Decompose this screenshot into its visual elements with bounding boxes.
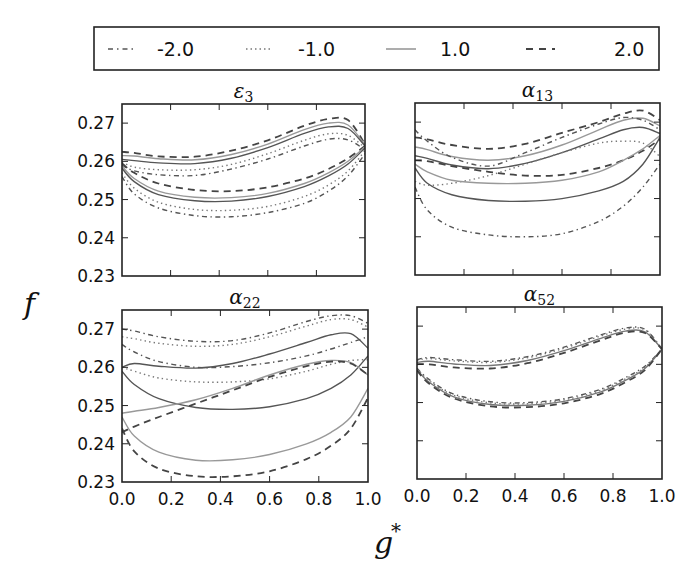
- series-line: [417, 327, 662, 361]
- series-line: [122, 315, 368, 342]
- series-line: [417, 331, 662, 368]
- y-tick-label: 0.25: [77, 190, 115, 210]
- y-tick-label: 0.23: [77, 266, 115, 286]
- legend-label: 1.0: [440, 38, 470, 60]
- y-tick-label: 0.27: [77, 319, 115, 339]
- x-tick-label: 0.6: [256, 489, 283, 509]
- y-tick-label: 0.26: [77, 357, 115, 377]
- series-group: [122, 118, 365, 218]
- x-tick-label: 0.4: [207, 489, 234, 509]
- series-line: [122, 337, 368, 368]
- x-tick-label: 0.0: [403, 486, 430, 506]
- y-tick-label: 0.23: [77, 472, 115, 492]
- x-tick-label: 0.6: [550, 486, 577, 506]
- x-tick-label: 0.8: [599, 486, 626, 506]
- x-tick-label: 0.4: [501, 486, 528, 506]
- x-tick-label: 0.8: [305, 489, 332, 509]
- series-group: [415, 110, 660, 236]
- series-line: [122, 360, 368, 413]
- x-axis-label: g *: [374, 519, 401, 560]
- subplot-alpha13: α13: [415, 78, 660, 275]
- y-tick-label: 0.25: [77, 396, 115, 416]
- series-line: [122, 151, 365, 211]
- plot-frame: [417, 307, 662, 479]
- series-line: [122, 398, 368, 477]
- y-axis-label: f: [22, 286, 40, 321]
- x-axis-label-sup: *: [391, 519, 401, 543]
- series-line: [122, 319, 368, 347]
- legend-label: 2.0: [614, 38, 644, 60]
- y-tick-label: 0.24: [77, 434, 115, 454]
- subplot-title: α13: [522, 78, 553, 104]
- legend: -2.0 -1.0 1.0 2.0: [94, 27, 659, 70]
- series-line: [122, 122, 365, 160]
- series-group: [417, 327, 662, 408]
- series-line: [122, 360, 368, 383]
- x-tick-label: 0.2: [452, 486, 479, 506]
- series-line: [415, 117, 660, 166]
- series-line: [122, 361, 368, 432]
- subplot-epsilon3: 0.270.260.250.240.23ε3: [77, 79, 365, 286]
- figure: -2.0 -1.0 1.0 2.0 0.270.260.250.240.23ε3…: [0, 0, 698, 579]
- series-line: [122, 146, 365, 191]
- subplot-alpha22: 0.00.20.40.60.81.00.270.260.250.240.23α2…: [77, 285, 381, 509]
- plot-frame: [122, 310, 368, 482]
- subplot-title: α22: [229, 285, 260, 311]
- x-tick-label: 0.0: [108, 489, 135, 509]
- series-group: [122, 315, 368, 477]
- series-line: [415, 118, 660, 160]
- x-tick-label: 0.2: [158, 489, 185, 509]
- legend-label: -1.0: [298, 38, 335, 60]
- y-tick-label: 0.27: [77, 113, 115, 133]
- x-tick-label: 1.0: [648, 486, 675, 506]
- plot-frame: [122, 104, 365, 276]
- y-tick-label: 0.24: [77, 228, 115, 248]
- plot-frame: [415, 103, 660, 275]
- legend-label: -2.0: [157, 38, 194, 60]
- x-tick-label: 1.0: [354, 489, 381, 509]
- subplot-title: α52: [524, 282, 555, 308]
- subplot-alpha52: 0.00.20.40.60.81.0α52: [403, 282, 675, 506]
- y-tick-label: 0.26: [77, 151, 115, 171]
- subplot-title: ε3: [234, 79, 254, 105]
